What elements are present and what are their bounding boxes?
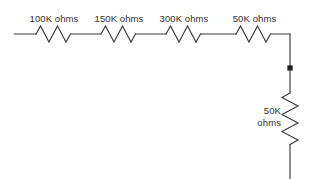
resistor-5-symbol [282,93,298,145]
resistor-3-label: 300K ohms [144,13,224,25]
resistor-2-symbol [101,26,136,42]
circuit-diagram: 100K ohms 150K ohms 300K ohms 50K ohms 5… [0,0,318,179]
resistor-5-label-line2: ohms [224,117,281,129]
circuit-schematic-svg [0,0,318,179]
resistor-4-symbol [236,26,271,42]
resistor-1-symbol [36,26,71,42]
resistor-5-label-line1: 50K [224,105,281,117]
resistor-3-symbol [166,26,201,42]
resistor-4-label: 50K ohms [216,13,293,25]
